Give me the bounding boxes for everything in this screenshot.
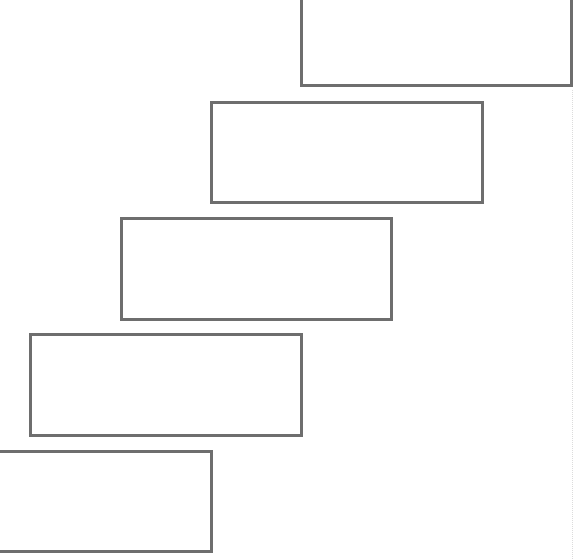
step-box (29, 333, 303, 437)
step-box (210, 101, 484, 204)
step-box (0, 450, 213, 553)
dotted-guide-line (572, 90, 573, 559)
step-box (120, 217, 393, 321)
step-box (300, 0, 573, 87)
